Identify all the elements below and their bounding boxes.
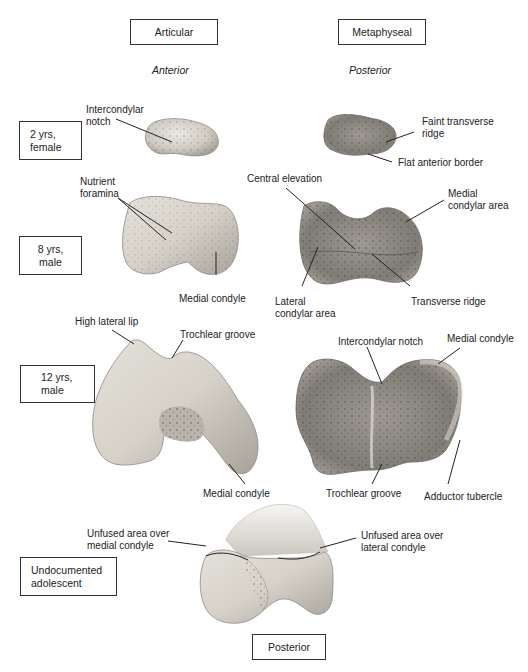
row-label-line: male bbox=[41, 384, 94, 397]
column-header-label: Articular bbox=[155, 26, 194, 39]
annotation-high-lateral-lip: High lateral lip bbox=[75, 316, 138, 328]
annotation-trochlear-groove-12yrs: Trochlear groove bbox=[180, 329, 255, 341]
annotation-nutrient-foramina: Nutrientforamina bbox=[80, 176, 119, 200]
view-label-posterior: Posterior bbox=[349, 64, 391, 76]
row-label-line: female bbox=[30, 141, 81, 154]
annotation-unfused-medial-condyle: Unfused area overmedial condyle bbox=[87, 528, 169, 552]
column-header-articular: Articular bbox=[130, 19, 218, 45]
annotation-medial-condyle-metaphyseal: Medial condyle bbox=[447, 333, 514, 345]
bone-8yrs-metaphyseal bbox=[300, 202, 423, 284]
annotation-flat-anterior-border: Flat anterior border bbox=[398, 157, 483, 169]
column-header-label: Metaphyseal bbox=[352, 26, 412, 39]
column-header-metaphyseal: Metaphyseal bbox=[338, 19, 426, 45]
bone-8yrs-articular bbox=[123, 196, 239, 274]
annotation-transverse-ridge: Transverse ridge bbox=[411, 296, 486, 308]
row-label-line: adolescent bbox=[31, 577, 116, 590]
annotation-central-elevation: Central elevation bbox=[247, 173, 322, 185]
annotation-medial-condyle-12yrs: Medial condyle bbox=[203, 488, 270, 500]
annotation-intercondylar-notch-12yrs: Intercondylar notch bbox=[338, 336, 423, 348]
view-label-anterior: Anterior bbox=[152, 64, 189, 76]
annotation-trochlear-groove-metaphyseal: Trochlear groove bbox=[326, 488, 401, 500]
annotation-intercondylar-notch: Intercondylarnotch bbox=[86, 104, 144, 128]
annotation-lateral-condylar-area: Lateralcondylar area bbox=[275, 296, 336, 320]
bottom-label-posterior: Posterior bbox=[252, 634, 326, 660]
row-label-line: male bbox=[39, 256, 62, 269]
row-label-2yrs-female: 2 yrs, female bbox=[19, 121, 82, 160]
bone-2yrs-articular bbox=[145, 119, 218, 156]
annotation-faint-transverse-ridge: Faint transverseridge bbox=[422, 116, 494, 140]
bone-adolescent-posterior bbox=[200, 504, 333, 623]
row-label-8yrs-male: 8 yrs, male bbox=[19, 236, 82, 275]
row-label-line: Undocumented bbox=[31, 564, 116, 577]
bottom-label-text: Posterior bbox=[268, 641, 310, 654]
bone-12yrs-articular bbox=[93, 340, 258, 474]
row-label-line: 2 yrs, bbox=[30, 128, 81, 141]
row-label-12yrs-male: 12 yrs, male bbox=[20, 365, 95, 403]
row-label-undocumented-adolescent: Undocumented adolescent bbox=[20, 557, 117, 596]
bone-2yrs-metaphyseal bbox=[324, 115, 396, 156]
annotation-unfused-lateral-condyle: Unfused area overlateral condyle bbox=[361, 530, 443, 554]
annotation-medial-condyle-8yrs: Medial condyle bbox=[179, 293, 246, 305]
annotation-adductor-tubercle: Adductor tubercle bbox=[424, 491, 502, 503]
annotation-medial-condylar-area: Medialcondylar area bbox=[448, 188, 509, 212]
row-label-line: 12 yrs, bbox=[41, 371, 94, 384]
row-label-line: 8 yrs, bbox=[38, 243, 64, 256]
